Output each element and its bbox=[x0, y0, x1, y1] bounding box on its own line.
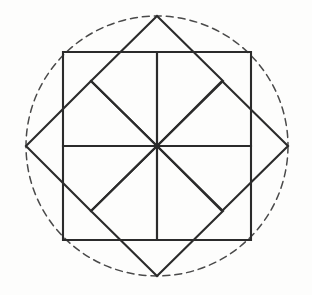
rosette-figure: Pinwheel rosette of eight overlapping sq… bbox=[0, 0, 312, 295]
geometric-figure-canvas: Pinwheel rosette of eight overlapping sq… bbox=[0, 0, 312, 295]
